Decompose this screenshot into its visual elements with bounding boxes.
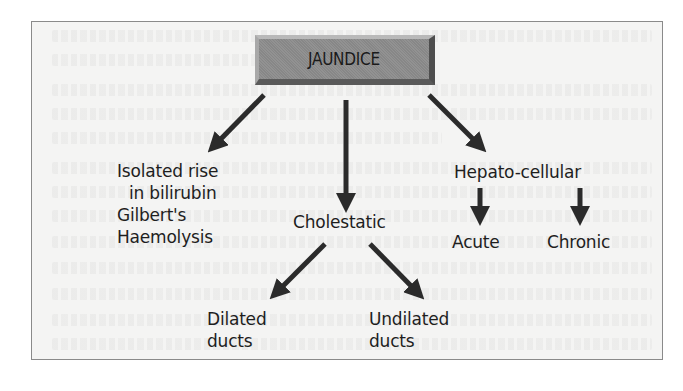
arrow-to-dilated — [276, 244, 325, 293]
node-acute: Acute — [452, 231, 500, 253]
arrow-to-hepatocellular — [429, 95, 480, 146]
node-cholestatic: Cholestatic — [293, 211, 386, 233]
node-dilated-line-2: ducts — [207, 330, 266, 352]
node-isolated-line-2: in bilirubin — [117, 182, 218, 204]
node-isolated-line-4: Haemolysis — [117, 226, 218, 248]
node-isolated-rise: Isolated rise in bilirubin Gilbert's Hae… — [117, 160, 218, 248]
node-dilated-ducts: Dilated ducts — [207, 308, 266, 352]
node-acute-label: Acute — [452, 231, 500, 253]
root-node-label: JAUNDICE — [308, 49, 380, 69]
node-chronic-label: Chronic — [547, 231, 610, 253]
node-isolated-line-1: Isolated rise — [117, 160, 218, 182]
node-undilated-line-2: ducts — [369, 330, 449, 352]
arrow-to-undilated — [370, 244, 418, 293]
arrow-to-isolated — [214, 95, 264, 146]
node-hepatocellular-label: Hepato-cellular — [454, 161, 581, 183]
node-isolated-line-3: Gilbert's — [117, 204, 218, 226]
root-node-jaundice: JAUNDICE — [255, 35, 435, 85]
node-chronic: Chronic — [547, 231, 610, 253]
node-dilated-line-1: Dilated — [207, 308, 266, 330]
node-cholestatic-label: Cholestatic — [293, 211, 386, 233]
node-undilated-ducts: Undilated ducts — [369, 308, 449, 352]
node-undilated-line-1: Undilated — [369, 308, 449, 330]
node-hepatocellular: Hepato-cellular — [454, 161, 581, 183]
